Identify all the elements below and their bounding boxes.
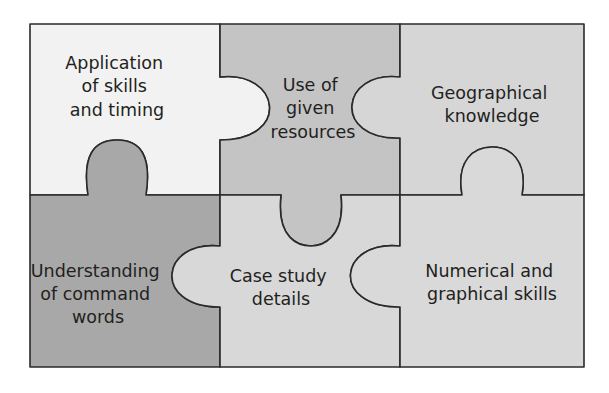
puzzle-diagram: Application of skills and timing Use of … [0, 0, 609, 393]
